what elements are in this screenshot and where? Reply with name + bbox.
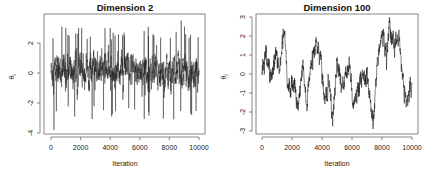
x-tick-label: 4000 [314,144,330,151]
y-tick-label: -2 [27,100,34,106]
y-tick-label: -4 [27,130,34,136]
x-tick-label: 8000 [162,144,178,151]
trace-line [262,17,412,129]
y-tick-label: 0 [239,72,246,76]
figure: Dimension 2 2 0 -2 -4 θi 0 2000 4000 [0,0,426,175]
y-tick-label: 0 [27,71,34,75]
y-axis-label: θi [220,74,229,79]
panel-dimension-2: Dimension 2 2 0 -2 -4 θi 0 2000 4000 [8,2,209,167]
x-ticks: 0 2000 4000 6000 8000 10000 [49,137,209,151]
trace-polyline [51,21,199,131]
y-tick-label: 2 [27,41,34,45]
x-tick-label: 2000 [284,144,300,151]
y-tick-label: -1 [239,90,246,96]
y-axis-label: θi [8,74,17,79]
y-tick-label: 3 [239,15,246,19]
y-ticks: 3 2 1 0 -1 -2 -3 [239,15,252,134]
y-tick-label: 2 [239,34,246,38]
chart-title: Dimension 2 [97,2,154,13]
x-tick-label: 10000 [189,144,209,151]
plot-frame [256,14,418,134]
panel-dimension-100: Dimension 100 3 2 1 0 -1 -2 -3 θi [220,2,422,167]
x-tick-label: 0 [49,144,53,151]
x-ticks: 0 2000 4000 6000 8000 10000 [260,137,422,151]
trace-polyline [262,17,412,129]
x-axis-label: Iteration [324,160,349,167]
y-tick-label: -3 [239,128,246,134]
x-tick-label: 6000 [132,144,148,151]
x-tick-label: 8000 [374,144,390,151]
trace-line [51,21,199,131]
x-tick-label: 6000 [344,144,360,151]
x-tick-label: 0 [260,144,264,151]
y-tick-label: -2 [239,109,246,115]
y-tick-label: 1 [239,53,246,57]
x-tick-label: 10000 [402,144,422,151]
x-tick-label: 4000 [102,144,118,151]
x-tick-label: 2000 [73,144,89,151]
x-axis-label: Iteration [112,160,137,167]
chart-title: Dimension 100 [303,2,370,13]
y-ticks: 2 0 -2 -4 [27,41,40,136]
